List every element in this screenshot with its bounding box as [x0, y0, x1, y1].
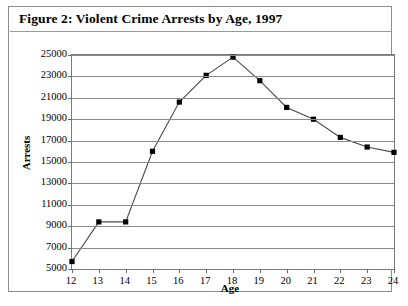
y-axis-tick: [68, 183, 72, 184]
y-axis-tick: [68, 55, 72, 56]
y-axis-tick-label: 17000: [17, 135, 67, 145]
gridline: [72, 141, 394, 142]
y-axis-tick-label: 15000: [17, 156, 67, 166]
plot-area: [71, 54, 395, 270]
data-point-marker: [391, 150, 396, 155]
y-axis-tick-labels: 5000700090001100013000150001700019000210…: [9, 54, 67, 268]
x-axis-tick: [394, 269, 395, 273]
y-axis-tick-label: 21000: [17, 92, 67, 102]
gridline: [72, 162, 394, 163]
gridline: [72, 119, 394, 120]
y-axis-tick: [68, 119, 72, 120]
y-axis-tick: [68, 226, 72, 227]
y-axis-tick-label: 19000: [17, 113, 67, 123]
gridline: [72, 183, 394, 184]
data-point-marker: [284, 105, 289, 110]
gridline: [72, 98, 394, 99]
y-axis-tick: [68, 76, 72, 77]
y-axis-tick-label: 9000: [17, 220, 67, 230]
gridline: [72, 55, 394, 56]
y-axis-tick-label: 7000: [17, 242, 67, 252]
data-point-marker: [365, 144, 370, 149]
data-point-marker: [150, 149, 155, 154]
y-axis-tick: [68, 141, 72, 142]
series-line: [72, 57, 394, 261]
title-divider: [10, 31, 392, 32]
y-axis-tick-label: 23000: [17, 70, 67, 80]
y-axis-tick-label: 11000: [17, 199, 67, 209]
figure-title: Figure 2: Violent Crime Arrests by Age, …: [19, 11, 282, 27]
data-point-marker: [123, 219, 128, 224]
data-point-marker: [257, 78, 262, 83]
x-axis-label: Age: [65, 282, 395, 294]
data-point-marker: [69, 259, 74, 264]
figure-container: Figure 2: Violent Crime Arrests by Age, …: [8, 6, 392, 292]
y-axis-tick: [68, 162, 72, 163]
y-axis-tick-label: 13000: [17, 177, 67, 187]
y-axis-tick-label: 5000: [17, 263, 67, 273]
gridline: [72, 226, 394, 227]
data-point-marker: [338, 135, 343, 140]
data-point-marker: [96, 219, 101, 224]
y-axis-tick: [68, 98, 72, 99]
data-point-marker: [177, 99, 182, 104]
y-axis-tick: [68, 205, 72, 206]
y-axis-tick-label: 25000: [17, 49, 67, 59]
y-axis-tick: [68, 248, 72, 249]
gridline: [72, 248, 394, 249]
gridline: [72, 76, 394, 77]
gridline: [72, 205, 394, 206]
